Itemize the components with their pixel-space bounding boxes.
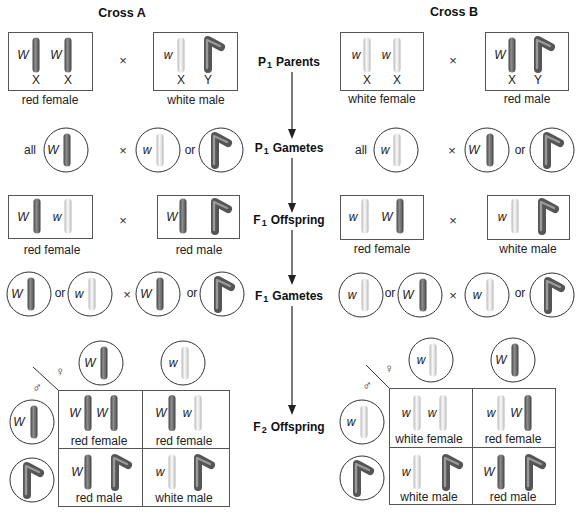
phenotype-label: red female [485, 433, 542, 445]
chromosome-type-label: X [508, 74, 516, 86]
allele-label: W [495, 354, 506, 366]
x-chromosome [440, 395, 447, 431]
all-prefix: all [24, 144, 36, 156]
allele-label: w [381, 144, 390, 156]
allele-label: W [11, 288, 22, 300]
allele-label: w [53, 211, 62, 223]
or-joiner: or [385, 287, 396, 299]
y-chromosome [210, 197, 232, 235]
allele-label: w [164, 49, 173, 61]
y-chromosome [213, 275, 235, 313]
step-label-f1-gametes: F1Gametes [255, 290, 323, 304]
allele-label: W [155, 407, 166, 419]
phenotype-label: red female [22, 94, 79, 106]
or-joiner: or [515, 144, 526, 156]
y-chromosome [352, 459, 374, 497]
phenotype-label: white male [499, 243, 556, 255]
grid-divider [389, 447, 556, 448]
gen-letter: F [255, 289, 262, 303]
cross-a-title: Cross A [98, 7, 145, 20]
or-joiner: or [515, 287, 526, 299]
x-chromosome [31, 406, 38, 439]
x-chromosome [397, 199, 404, 234]
or-joiner: or [187, 287, 198, 299]
x-chromosome [65, 199, 72, 234]
allele-label: w [183, 407, 192, 419]
female-symbol-icon: ♀ [55, 365, 65, 378]
gen-letter: P [255, 141, 263, 155]
allele-label: W [166, 211, 177, 223]
cross-symbol: × [119, 54, 127, 67]
allele-label: w [428, 407, 437, 419]
chromosome-type-label: X [393, 74, 401, 86]
step-label-f1-offspring: F1Offspring [253, 214, 324, 228]
x-chromosome [178, 38, 185, 73]
step-name: Offspring [271, 420, 325, 434]
step-name: Gametes [272, 289, 323, 303]
x-chromosome [525, 395, 532, 431]
x-chromosome [512, 199, 519, 234]
allele-label: W [483, 466, 494, 478]
allele-label: w [347, 416, 356, 428]
x-chromosome [28, 278, 35, 311]
step-name: Gametes [273, 141, 324, 155]
x-chromosome [85, 395, 92, 431]
cross-symbol: × [449, 54, 457, 67]
allele-label: W [69, 407, 80, 419]
allele-label: w [169, 357, 178, 369]
x-chromosome [430, 344, 437, 377]
x-chromosome [157, 134, 164, 167]
allele-label: w [417, 354, 426, 366]
gen-subscript: 1 [262, 218, 267, 228]
allele-label: W [17, 49, 28, 61]
x-chromosome [512, 344, 519, 377]
chromosome-type-label: X [32, 74, 40, 86]
allele-label: w [402, 407, 411, 419]
x-chromosome [195, 395, 202, 431]
male-symbol-icon: ♂ [32, 381, 42, 394]
x-chromosome [394, 134, 401, 167]
x-chromosome [180, 199, 187, 234]
gen-subscript: 1 [264, 146, 269, 156]
x-linked-inheritance-diagram: P1Parents P1Gametes F1Offspring F1Gamete… [0, 0, 579, 515]
x-chromosome [364, 38, 371, 73]
generation-arrow [288, 230, 296, 285]
or-joiner: or [55, 287, 66, 299]
cross-symbol: × [449, 289, 457, 302]
x-chromosome [89, 278, 96, 311]
y-chromosome [110, 453, 132, 491]
allele-label: w [487, 407, 496, 419]
chromosome-type-label: X [177, 74, 185, 86]
allele-label: W [402, 289, 413, 301]
all-prefix: all [355, 144, 367, 156]
allele-label: W [510, 407, 521, 419]
chromosome-type-label: Y [534, 74, 542, 86]
allele-label: w [402, 466, 411, 478]
y-chromosome [543, 276, 565, 314]
cross-symbol: × [448, 144, 456, 157]
allele-label: W [96, 407, 107, 419]
phenotype-label: red male [76, 492, 123, 504]
x-chromosome [85, 455, 92, 490]
step-name: Offspring [271, 213, 325, 227]
gen-subscript: 1 [263, 294, 268, 304]
allele-label: W [381, 211, 392, 223]
x-chromosome [498, 395, 505, 431]
allele-label: w [156, 466, 165, 478]
phenotype-label: red female [156, 435, 213, 447]
allele-label: W [84, 357, 95, 369]
allele-label: w [75, 288, 84, 300]
grid-divider [58, 448, 230, 449]
x-chromosome [157, 278, 164, 311]
y-chromosome [203, 35, 225, 73]
gen-subscript: 1 [267, 60, 272, 70]
x-chromosome [182, 347, 189, 380]
gen-letter: F [253, 213, 260, 227]
cross-symbol: × [119, 144, 127, 157]
x-chromosome [362, 199, 369, 234]
female-symbol-icon: ♀ [384, 362, 394, 375]
x-chromosome [414, 455, 421, 490]
x-chromosome [361, 406, 368, 439]
step-label-p1-gametes: P1Gametes [255, 142, 324, 156]
phenotype-label: red male [176, 244, 223, 256]
